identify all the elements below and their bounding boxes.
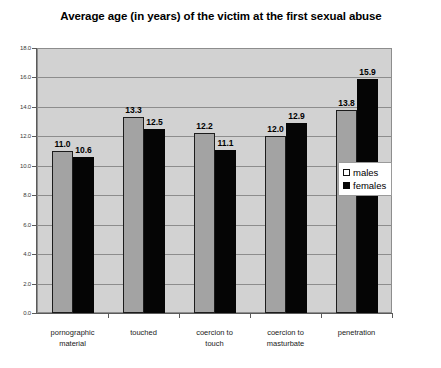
legend-item-females: females <box>343 179 386 192</box>
bar-males-2 <box>194 133 215 313</box>
bar-chart: Average age (in years) of the victim at … <box>0 0 441 368</box>
bar-males-1 <box>123 117 144 313</box>
bar-males-0 <box>52 151 73 313</box>
y-tick-label: 10.0 <box>3 163 31 169</box>
x-axis-category-label: touched <box>108 328 179 339</box>
y-tick-label: 2.0 <box>3 281 31 287</box>
y-tick-mark <box>32 313 37 314</box>
x-axis-category-label-line: touch <box>179 339 250 350</box>
chart-legend: males females <box>338 162 392 196</box>
x-axis-category-label-line: pornographic <box>37 328 108 339</box>
legend-item-males: males <box>343 166 386 179</box>
bar-value-label-males-1: 13.3 <box>117 105 150 115</box>
y-tick-label: 8.0 <box>3 192 31 198</box>
bar-females-0 <box>73 157 94 313</box>
legend-swatch-males-icon <box>343 169 350 176</box>
x-tick-mark <box>179 314 180 318</box>
x-axis-category-label-line: masturbate <box>250 339 321 350</box>
y-tick-mark <box>32 107 37 108</box>
chart-title-line-1: Average age (in years) of the victim at … <box>60 10 345 22</box>
y-tick-mark <box>32 48 37 49</box>
x-axis-category-label: pornographicmaterial <box>37 328 108 349</box>
x-axis-category-label-line: touched <box>108 328 179 339</box>
bar-females-2 <box>215 150 236 313</box>
gridline <box>38 48 391 49</box>
y-tick-mark <box>32 254 37 255</box>
y-tick-mark <box>32 166 37 167</box>
x-axis-category-label-line: penetration <box>321 328 392 339</box>
y-tick-label: 14.0 <box>3 104 31 110</box>
x-tick-mark <box>250 314 251 318</box>
x-tick-mark <box>108 314 109 318</box>
y-tick-label: 12.0 <box>3 133 31 139</box>
bar-value-label-females-4: 15.9 <box>351 67 384 77</box>
y-tick-mark <box>32 136 37 137</box>
bar-males-3 <box>265 136 286 313</box>
y-tick-mark <box>32 77 37 78</box>
legend-label-females: females <box>353 180 386 191</box>
y-tick-label: 16.0 <box>3 74 31 80</box>
x-tick-mark <box>392 314 393 318</box>
y-tick-mark <box>32 284 37 285</box>
x-axis-category-label: penetration <box>321 328 392 339</box>
y-axis-line <box>36 48 37 314</box>
legend-swatch-females-icon <box>343 182 350 189</box>
y-tick-mark <box>32 195 37 196</box>
bar-value-label-females-0: 10.6 <box>67 145 100 155</box>
legend-label-males: males <box>353 167 378 178</box>
y-tick-label: 18.0 <box>3 45 31 51</box>
y-axis-labels: 0.02.04.06.08.010.012.014.016.018.0 <box>0 0 31 368</box>
x-axis-category-label: coercion totouch <box>179 328 250 349</box>
bar-females-3 <box>286 123 307 313</box>
bar-females-4 <box>357 79 378 313</box>
y-tick-label: 6.0 <box>3 222 31 228</box>
gridline <box>38 77 391 78</box>
bar-females-1 <box>144 129 165 313</box>
bar-value-label-males-2: 12.2 <box>188 121 221 131</box>
x-axis-category-label-line: coercion to <box>250 328 321 339</box>
bar-value-label-females-2: 11.1 <box>209 138 242 148</box>
y-tick-mark <box>32 225 37 226</box>
y-tick-label: 4.0 <box>3 251 31 257</box>
chart-title: Average age (in years) of the victim at … <box>36 9 406 24</box>
bar-value-label-females-3: 12.9 <box>280 111 313 121</box>
x-tick-mark <box>321 314 322 318</box>
bar-value-label-females-1: 12.5 <box>138 117 171 127</box>
bar-males-4 <box>336 110 357 313</box>
x-axis-category-label: coercion tomasturbate <box>250 328 321 349</box>
y-tick-label: 0.0 <box>3 310 31 316</box>
x-axis-category-label-line: material <box>37 339 108 350</box>
chart-title-line-2: abuse <box>349 10 382 22</box>
x-axis-category-label-line: coercion to <box>179 328 250 339</box>
x-axis-line <box>37 313 393 314</box>
